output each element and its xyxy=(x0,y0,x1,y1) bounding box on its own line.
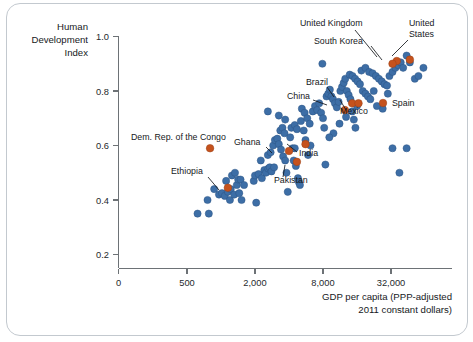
x-tick-label-0: 0 xyxy=(116,278,121,288)
figure-container: Human Development Index 1.0 0.8 0.6 0.4 … xyxy=(0,0,473,342)
point-label-ghana: Ghana xyxy=(234,137,261,147)
data-point xyxy=(257,157,264,164)
data-point xyxy=(415,72,422,79)
data-point xyxy=(204,196,211,203)
data-point xyxy=(336,120,343,127)
data-point xyxy=(223,177,230,184)
data-point xyxy=(384,90,391,97)
point-label-united-kingdom: United Kingdom xyxy=(300,18,363,28)
x-axis-ticks: 0 500 2,000 8,000 32,000 xyxy=(116,269,405,289)
highlighted-data-point-ghana xyxy=(285,147,293,155)
data-point xyxy=(356,81,363,88)
data-point xyxy=(319,115,326,122)
point-label-ethiopia: Ethiopia xyxy=(171,166,203,176)
data-point xyxy=(403,145,410,152)
data-point xyxy=(238,196,245,203)
point-label-united-states-line-2: States xyxy=(409,29,435,39)
highlighted-data-point-dem-rep-of-the-congo xyxy=(206,144,214,152)
y-axis-title-line-2: Development xyxy=(31,34,88,45)
y-tick-label-0.6: 0.6 xyxy=(96,141,109,151)
data-point xyxy=(321,124,328,131)
highlighted-data-point-south-korea xyxy=(389,60,397,68)
data-point xyxy=(282,157,289,164)
y-tick-label-0.2: 0.2 xyxy=(96,250,109,260)
data-point xyxy=(275,112,282,119)
data-point xyxy=(306,120,313,127)
data-point xyxy=(231,169,238,176)
point-label-brazil: Brazil xyxy=(306,77,328,87)
point-label-spain: Spain xyxy=(392,98,415,108)
y-tick-label-0.8: 0.8 xyxy=(96,87,109,97)
x-tick-label-8000: 8,000 xyxy=(311,278,334,288)
leader-line xyxy=(371,46,382,60)
point-label-india: India xyxy=(299,148,318,158)
scatter-chart: Human Development Index 1.0 0.8 0.6 0.4 … xyxy=(0,0,473,342)
data-point xyxy=(194,210,201,217)
data-point xyxy=(352,124,359,131)
data-point xyxy=(267,149,274,156)
y-axis-ticks: 1.0 0.8 0.6 0.4 0.2 xyxy=(96,32,118,260)
data-point xyxy=(282,116,289,123)
x-axis-title-line-1: GDP per capita (PPP-adjusted xyxy=(322,291,452,302)
data-point xyxy=(287,134,294,141)
data-point xyxy=(236,190,243,197)
data-point xyxy=(396,169,403,176)
y-tick-label-0.4: 0.4 xyxy=(96,196,109,206)
point-label-united-states: United xyxy=(409,18,435,28)
x-tick-label-2000: 2,000 xyxy=(243,278,266,288)
x-tick-label-500: 500 xyxy=(179,278,195,288)
highlighted-data-point-india xyxy=(302,140,310,148)
point-label-mexico: Mexico xyxy=(340,106,368,116)
point-label-china: China xyxy=(287,91,310,101)
x-axis-title: GDP per capita (PPP-adjusted 2011 consta… xyxy=(322,291,452,315)
data-point xyxy=(389,145,396,152)
data-point xyxy=(270,164,277,171)
data-point xyxy=(400,64,407,71)
point-label-south-korea: South Korea xyxy=(314,36,363,46)
point-label-pakistan: Pakistan xyxy=(274,175,308,185)
y-axis-title: Human Development Index xyxy=(31,21,88,58)
data-point xyxy=(350,116,357,123)
data-point xyxy=(370,87,377,94)
y-axis-title-line-3: Index xyxy=(65,47,89,58)
data-point xyxy=(277,146,284,153)
y-axis-title-line-1: Human xyxy=(57,21,88,32)
highlighted-data-point-spain xyxy=(379,99,387,107)
data-point xyxy=(253,199,260,206)
data-point xyxy=(322,161,329,168)
data-point xyxy=(326,134,333,141)
x-tick-label-32000: 32,000 xyxy=(377,278,405,288)
y-tick-label-1.0: 1.0 xyxy=(96,32,109,42)
data-point xyxy=(293,126,300,133)
data-point xyxy=(264,108,271,115)
data-point xyxy=(240,181,247,188)
point-label-dem-rep-of-the-congo: Dem. Rep. of the Congo xyxy=(131,132,226,142)
label-leader-lines xyxy=(208,30,408,190)
highlighted-data-point-ethiopia xyxy=(224,184,232,192)
highlighted-data-point-united-states xyxy=(406,56,414,64)
data-point xyxy=(205,210,212,217)
data-point xyxy=(383,82,390,89)
data-point xyxy=(300,127,307,134)
data-point xyxy=(319,60,326,67)
data-point xyxy=(367,96,374,103)
data-point xyxy=(420,64,427,71)
x-axis-title-line-2: 2011 constant dollars) xyxy=(358,304,452,315)
data-point xyxy=(284,188,291,195)
highlighted-data-point-pakistan xyxy=(293,158,301,166)
